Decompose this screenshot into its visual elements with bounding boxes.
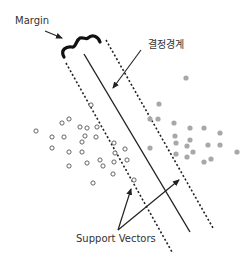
open-point — [67, 164, 71, 168]
open-point — [112, 141, 116, 145]
open-point — [85, 126, 89, 130]
open-point — [62, 135, 66, 139]
open-point — [80, 150, 84, 154]
support-vector-arrow-right — [118, 180, 179, 230]
open-point — [67, 117, 71, 121]
filled-point — [171, 120, 176, 125]
decision-boundary-label: 결정경계 — [148, 38, 184, 50]
open-point — [78, 125, 82, 129]
filled-point — [147, 116, 152, 121]
class-b-points — [147, 75, 239, 164]
open-point — [113, 151, 117, 155]
open-point — [80, 140, 84, 144]
filled-point — [183, 75, 188, 80]
filled-point — [187, 137, 192, 142]
filled-point — [201, 159, 206, 164]
filled-point — [201, 125, 206, 130]
open-point — [95, 125, 99, 129]
filled-point — [155, 116, 160, 121]
filled-point — [208, 156, 213, 161]
filled-point — [217, 142, 222, 147]
open-point — [34, 129, 38, 133]
open-point — [91, 181, 95, 185]
open-point — [125, 158, 129, 162]
filled-point — [187, 125, 192, 130]
open-point — [83, 134, 87, 138]
filled-point — [190, 149, 195, 154]
open-point — [67, 150, 71, 154]
support-vectors-label: Support Vectors — [76, 233, 156, 244]
filled-point — [217, 130, 222, 135]
open-point — [89, 103, 93, 107]
filled-point — [205, 142, 210, 147]
svm-diagram: Margin 결정경계 Support Vectors — [0, 0, 251, 267]
filled-point — [147, 145, 152, 150]
open-point — [50, 146, 54, 150]
right-margin-line — [106, 40, 213, 228]
margin-label: Margin — [15, 15, 49, 26]
filled-point — [234, 149, 239, 154]
filled-point — [173, 140, 178, 145]
open-point — [60, 121, 64, 125]
open-point — [132, 178, 136, 182]
svm-plot: Margin 결정경계 Support Vectors — [0, 0, 251, 267]
filled-point — [172, 133, 177, 138]
margin-brace-icon — [63, 36, 100, 57]
open-point — [98, 158, 102, 162]
support-vector-arrow-left — [118, 189, 131, 230]
margin-arrow — [45, 31, 62, 38]
open-point — [111, 172, 115, 176]
open-point — [123, 147, 127, 151]
filled-point — [184, 143, 189, 148]
open-point — [50, 135, 54, 139]
decision-boundary-arrow — [113, 50, 141, 88]
filled-point — [184, 154, 189, 159]
filled-point — [173, 151, 178, 156]
open-point — [85, 161, 89, 165]
open-point — [101, 164, 105, 168]
open-point — [94, 135, 98, 139]
open-point — [112, 160, 116, 164]
left-margin-line — [66, 63, 172, 252]
filled-point — [156, 101, 161, 106]
